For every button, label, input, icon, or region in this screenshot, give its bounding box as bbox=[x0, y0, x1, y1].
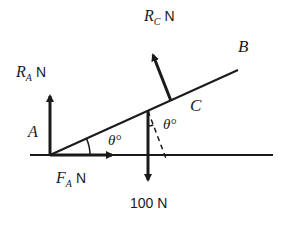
point-b-label: B bbox=[238, 38, 248, 55]
rod-ab bbox=[50, 70, 238, 155]
force-diagram bbox=[0, 0, 286, 225]
fa-label: FA N bbox=[56, 170, 86, 186]
point-c-label: C bbox=[190, 97, 201, 114]
weight-label: 100 N bbox=[130, 196, 167, 210]
angle-a-label: θ° bbox=[108, 133, 121, 148]
rc-arrow bbox=[153, 55, 171, 101]
angle-arc-a bbox=[87, 139, 91, 155]
ra-label: RA N bbox=[16, 64, 46, 80]
rc-label: RC N bbox=[144, 8, 175, 24]
point-a-label: A bbox=[28, 124, 38, 140]
angle-c-label: θ° bbox=[163, 117, 176, 132]
